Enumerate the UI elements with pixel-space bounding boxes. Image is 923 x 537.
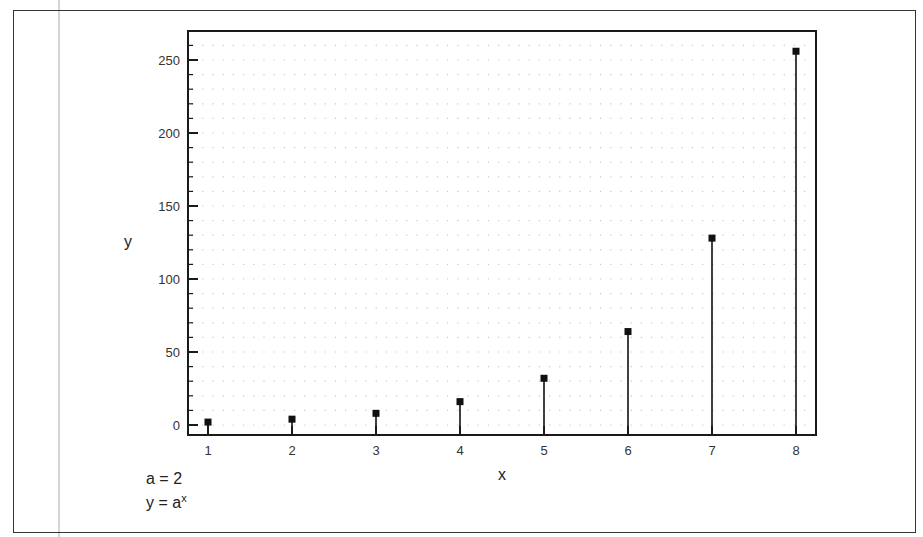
y-axis-label: y (124, 233, 132, 250)
x-axis-label: x (498, 466, 506, 483)
stem-chart: 050100150200250 12345678 y x (0, 0, 923, 537)
x-tick-label: 1 (204, 443, 211, 458)
y-tick-label: 0 (173, 418, 180, 433)
square-marker (625, 328, 632, 335)
y-tick-label: 200 (158, 126, 180, 141)
square-marker (289, 416, 296, 423)
x-tick-label: 6 (624, 443, 631, 458)
x-tick-label: 2 (288, 443, 295, 458)
data-stems (205, 48, 800, 435)
x-tick-label: 7 (708, 443, 715, 458)
square-marker (709, 235, 716, 242)
x-tick-label: 3 (372, 443, 379, 458)
square-marker (793, 48, 800, 55)
dotted-grid (192, 45, 814, 425)
y-axis-ticks: 050100150200250 (158, 45, 198, 433)
square-marker (373, 410, 380, 417)
annotation-line-1: a = 2 (146, 470, 182, 487)
y-tick-label: 50 (166, 345, 180, 360)
annotation-a-value: a = 2 (146, 469, 182, 488)
annotation-line-2-exponent: x (181, 492, 187, 504)
annotation-formula: y = ax (146, 489, 187, 512)
x-axis-ticks: 12345678 (204, 426, 799, 458)
square-marker (541, 375, 548, 382)
y-tick-label: 250 (158, 53, 180, 68)
x-tick-label: 4 (456, 443, 463, 458)
square-marker (205, 419, 212, 426)
y-tick-label: 150 (158, 199, 180, 214)
plot-area-border (188, 31, 816, 435)
x-tick-label: 5 (540, 443, 547, 458)
y-tick-label: 100 (158, 272, 180, 287)
x-tick-label: 8 (792, 443, 799, 458)
annotation-line-2-base: y = a (146, 494, 181, 511)
square-marker (457, 398, 464, 405)
